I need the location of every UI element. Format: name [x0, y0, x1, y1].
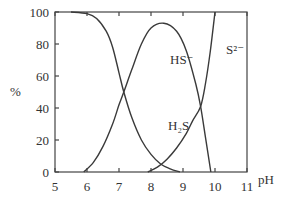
y-axis-label: % — [10, 84, 21, 99]
label-hs-minus: HS⁻ — [170, 52, 193, 67]
y-tick-label: 20 — [36, 133, 49, 148]
label-s2-minus: S²⁻ — [226, 42, 244, 57]
curve-h2s — [71, 12, 180, 172]
speciation-chart: 020406080100 567891011 % pH HS⁻ H₂S S²⁻ — [0, 0, 288, 202]
x-tick-label: 9 — [180, 179, 187, 194]
x-tick-label: 5 — [52, 179, 59, 194]
y-tick-label: 100 — [30, 5, 50, 20]
x-tick-label: 7 — [116, 179, 123, 194]
label-h2s: H₂S — [168, 118, 189, 133]
y-tick-label: 0 — [43, 165, 50, 180]
x-tick-label: 8 — [148, 179, 155, 194]
x-tick-label: 6 — [84, 179, 91, 194]
x-tick-label: 10 — [209, 179, 222, 194]
x-tick-label: 11 — [241, 179, 254, 194]
x-axis-label: pH — [258, 172, 274, 187]
y-tick-label: 60 — [36, 69, 49, 84]
plot-border — [55, 12, 247, 172]
plot-frame — [55, 12, 247, 172]
curve-s2- — [148, 12, 215, 172]
x-axis-ticks: 567891011 — [52, 12, 254, 194]
species-curves — [71, 12, 215, 172]
y-tick-label: 40 — [36, 101, 49, 116]
y-tick-label: 80 — [36, 37, 49, 52]
